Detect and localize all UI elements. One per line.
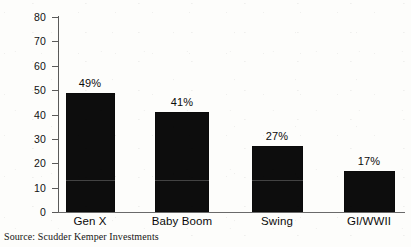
y-axis-tick-label-text: 50 xyxy=(0,85,46,96)
y-axis-tick-label: 30 xyxy=(0,134,46,145)
y-axis-tick-label: 70 xyxy=(0,36,46,47)
y-axis-tick-label-text: 80 xyxy=(0,12,46,23)
x-axis-category-label: GI/WWII xyxy=(324,216,411,228)
bar-scan-streak xyxy=(252,180,303,181)
y-axis-tick-label-text: 20 xyxy=(0,158,46,169)
bar-value-label: 49% xyxy=(60,78,120,89)
bar-value-label: 17% xyxy=(339,156,399,167)
source-note: Source: Scudder Kemper Investments xyxy=(4,231,159,242)
bar[interactable] xyxy=(344,171,395,212)
y-axis-tick-label: 50 xyxy=(0,85,46,96)
bar[interactable] xyxy=(66,93,115,212)
bar[interactable] xyxy=(252,146,303,212)
y-axis-tick-label-text: 0 xyxy=(0,207,46,218)
bar-scan-streak xyxy=(155,180,209,181)
x-axis-category-label: Swing xyxy=(232,216,322,228)
y-axis-tick xyxy=(52,115,58,116)
bar[interactable] xyxy=(155,112,209,212)
y-axis-tick xyxy=(52,41,58,42)
bar-chart-figure: 80706050403020100 49%41%27%17% Gen XBaby… xyxy=(0,0,411,247)
y-axis-tick xyxy=(52,139,58,140)
x-axis-baseline xyxy=(58,212,405,213)
y-axis-tick xyxy=(52,212,58,213)
y-axis-tick-label-text: 60 xyxy=(0,61,46,72)
y-axis-tick-label: 0 xyxy=(0,207,46,218)
bar-value-label: 27% xyxy=(247,131,307,142)
y-axis-tick-label-text: 40 xyxy=(0,110,46,121)
y-axis-tick-label: 10 xyxy=(0,183,46,194)
y-axis-tick-label-text: 10 xyxy=(0,183,46,194)
x-axis-category-label: Gen X xyxy=(45,216,135,228)
y-axis-tick-label: 20 xyxy=(0,158,46,169)
bar-scan-streak xyxy=(66,180,115,181)
y-axis-tick-label: 60 xyxy=(0,61,46,72)
bar-value-label: 41% xyxy=(152,97,212,108)
y-axis-tick-label-text: 30 xyxy=(0,134,46,145)
x-axis-category-label: Baby Boom xyxy=(137,216,227,228)
y-axis-tick-label-text: 70 xyxy=(0,36,46,47)
y-axis-tick xyxy=(52,66,58,67)
y-axis-tick-label: 80 xyxy=(0,12,46,23)
y-axis-tick xyxy=(52,90,58,91)
y-axis-tick xyxy=(52,17,58,18)
y-axis-tick xyxy=(52,163,58,164)
plot-area: 80706050403020100 49%41%27%17% Gen XBaby… xyxy=(0,0,411,247)
y-axis-tick-label: 40 xyxy=(0,110,46,121)
y-axis-tick xyxy=(52,188,58,189)
y-axis-line xyxy=(58,16,59,213)
